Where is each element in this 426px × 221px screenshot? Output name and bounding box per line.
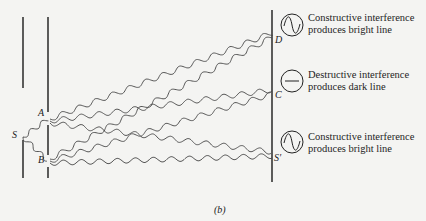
label-slit-a: A <box>37 107 45 118</box>
annotation-constructive-top: Constructive interference produces brigh… <box>308 12 414 36</box>
label-point-c: C <box>275 89 282 100</box>
figure-caption: (b) <box>214 204 226 215</box>
annotation-line2: produces bright line <box>308 143 414 155</box>
sine-wave-icon <box>281 131 303 153</box>
annotation-destructive: Destructive interference produces dark l… <box>308 69 409 93</box>
label-point-s-prime: S′ <box>274 152 282 163</box>
label-slit-b: B <box>38 154 44 165</box>
annotation-line1: Constructive interference <box>308 12 414 24</box>
annotation-constructive-bottom: Constructive interference produces brigh… <box>308 131 414 155</box>
flat-line-icon <box>281 70 303 92</box>
label-source: S <box>12 129 17 140</box>
wave-source-to-a <box>23 120 48 137</box>
wave-a-to-s-prime <box>50 122 271 154</box>
label-point-d: D <box>274 34 283 45</box>
wave-b-to-c <box>50 92 271 162</box>
wave-paths <box>23 34 273 166</box>
annotation-line2: produces bright line <box>308 24 414 36</box>
wave-b-to-s-prime <box>50 154 272 165</box>
wave-a-to-d <box>50 34 273 120</box>
annotation-line1: Constructive interference <box>308 131 414 143</box>
annotation-line1: Destructive interference <box>308 69 409 81</box>
wave-b-to-d <box>50 37 272 159</box>
annotation-line2: produces dark line <box>308 81 409 93</box>
sine-wave-icon <box>281 14 303 36</box>
